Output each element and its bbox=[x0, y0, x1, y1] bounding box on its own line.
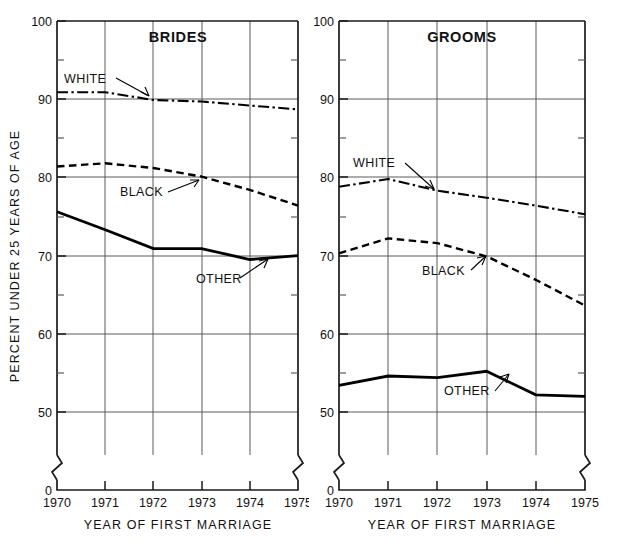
grooms-x-tick-labels: 1970 1971 1972 1973 1974 1975 bbox=[325, 496, 599, 510]
series-label-white: WHITE bbox=[64, 72, 106, 86]
brides-x-tick-labels: 1970 1971 1972 1973 1974 1975 bbox=[43, 496, 309, 510]
series-label-white: WHITE bbox=[353, 156, 395, 170]
x-tick-label: 1972 bbox=[423, 496, 451, 510]
panel-brides: 100 90 80 70 60 50 0 1970 1971 1972 1973… bbox=[0, 0, 309, 548]
grooms-gridlines-horizontal bbox=[339, 99, 585, 412]
series-line-white-brides bbox=[57, 92, 298, 109]
y-tick-label: 50 bbox=[320, 406, 334, 420]
y-tick-label: 50 bbox=[38, 406, 52, 420]
series-label-black: BLACK bbox=[120, 185, 163, 199]
annotation-white-grooms: WHITE bbox=[353, 156, 434, 189]
y-tick-label: 70 bbox=[38, 250, 52, 264]
x-axis-title-grooms: YEAR OF FIRST MARRIAGE bbox=[368, 518, 557, 532]
series-label-other: OTHER bbox=[196, 272, 242, 286]
x-tick-label: 1975 bbox=[571, 496, 599, 510]
x-tick-label: 1974 bbox=[522, 496, 550, 510]
x-tick-label: 1973 bbox=[188, 496, 216, 510]
figure-dual-line-charts: 100 90 80 70 60 50 0 1970 1971 1972 1973… bbox=[0, 0, 618, 548]
series-line-other-brides bbox=[57, 212, 298, 260]
y-axis-title: PERCENT UNDER 25 YEARS OF AGE bbox=[8, 130, 22, 382]
x-tick-label: 1971 bbox=[374, 496, 402, 510]
y-tick-label: 60 bbox=[38, 328, 52, 342]
series-label-black: BLACK bbox=[422, 264, 465, 278]
x-tick-label: 1970 bbox=[43, 496, 71, 510]
y-tick-label: 100 bbox=[31, 15, 52, 29]
x-tick-label: 1973 bbox=[473, 496, 501, 510]
brides-y-tick-labels: 100 90 80 70 60 50 0 bbox=[31, 15, 52, 498]
panel-title-brides: BRIDES bbox=[149, 29, 207, 45]
brides-gridlines-horizontal bbox=[57, 99, 298, 412]
y-tick-label: 90 bbox=[320, 93, 334, 107]
annotation-black-grooms: BLACK bbox=[422, 256, 486, 278]
brides-x-ticks bbox=[105, 481, 250, 490]
x-tick-label: 1971 bbox=[91, 496, 119, 510]
grooms-svg: 100 90 80 70 60 50 0 1970 1971 1972 1973… bbox=[309, 0, 618, 548]
y-tick-label: 60 bbox=[320, 328, 334, 342]
x-tick-label: 1974 bbox=[236, 496, 264, 510]
grooms-y-tick-labels: 100 90 80 70 60 50 0 bbox=[313, 15, 334, 498]
grooms-y-minor-ticks bbox=[339, 60, 585, 373]
y-tick-label: 70 bbox=[320, 250, 334, 264]
y-tick-label: 80 bbox=[320, 171, 334, 185]
x-axis-title-brides: YEAR OF FIRST MARRIAGE bbox=[84, 518, 273, 532]
panel-title-grooms: GROOMS bbox=[427, 29, 497, 45]
y-tick-label: 90 bbox=[38, 93, 52, 107]
panel-grooms: 100 90 80 70 60 50 0 1970 1971 1972 1973… bbox=[309, 0, 618, 548]
series-line-black-brides bbox=[57, 163, 298, 205]
grooms-x-ticks bbox=[388, 481, 536, 490]
series-label-other: OTHER bbox=[444, 384, 490, 398]
x-tick-label: 1975 bbox=[284, 496, 309, 510]
x-tick-label: 1970 bbox=[325, 496, 353, 510]
y-tick-label: 80 bbox=[38, 171, 52, 185]
x-tick-label: 1972 bbox=[139, 496, 167, 510]
y-tick-label: 100 bbox=[313, 15, 334, 29]
annotation-black-brides: BLACK bbox=[120, 180, 199, 199]
annotation-other-brides: OTHER bbox=[196, 259, 268, 286]
series-line-white-grooms bbox=[339, 179, 585, 214]
brides-svg: 100 90 80 70 60 50 0 1970 1971 1972 1973… bbox=[0, 0, 309, 548]
